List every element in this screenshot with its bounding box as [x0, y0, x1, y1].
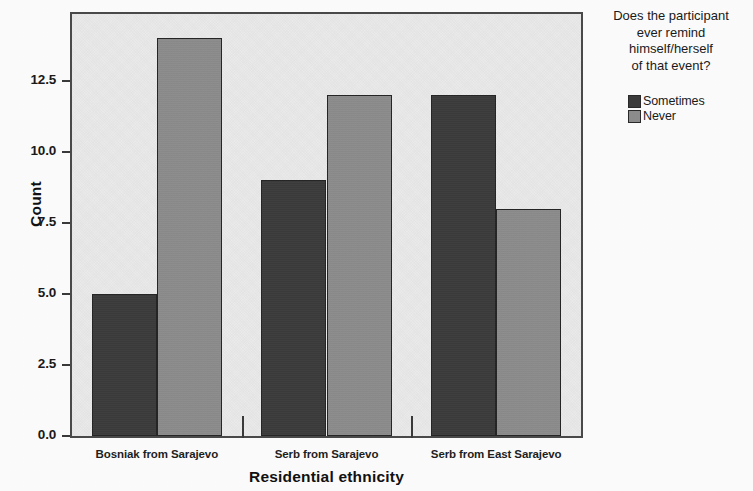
y-tick-mark-2 — [62, 293, 70, 295]
bar-never-2 — [496, 209, 561, 436]
legend-label-sometimes: Sometimes — [643, 94, 705, 108]
y-tick-label-0: 0.0 — [12, 427, 56, 442]
legend: Does the participant ever remind himself… — [596, 8, 746, 124]
y-tick-mark-5 — [62, 80, 70, 82]
y-tick-label-5: 12.5 — [12, 72, 56, 87]
plot-area — [70, 12, 583, 438]
x-axis-title: Residential ethnicity — [70, 468, 583, 486]
legend-swatch-icon-never — [628, 110, 641, 123]
bar-never-0 — [157, 38, 222, 436]
x-tick-label-2: Serb from East Sarajevo — [406, 448, 586, 460]
y-axis-title: Count — [27, 144, 45, 264]
bar-never-1 — [327, 95, 392, 436]
legend-swatch-icon-sometimes — [628, 95, 641, 108]
x-category-divider-2 — [411, 416, 413, 438]
y-tick-label-1: 2.5 — [12, 356, 56, 371]
x-tick-label-0: Bosniak from Sarajevo — [67, 448, 247, 460]
legend-item-never: Never — [628, 109, 746, 123]
y-tick-mark-4 — [62, 151, 70, 153]
bar-sometimes-2 — [431, 95, 496, 436]
bar-sometimes-1 — [261, 180, 326, 436]
legend-label-never: Never — [643, 109, 676, 123]
legend-items: SometimesNever — [596, 94, 746, 123]
legend-item-sometimes: Sometimes — [628, 94, 746, 108]
y-tick-label-2: 5.0 — [12, 285, 56, 300]
y-tick-mark-1 — [62, 364, 70, 366]
x-tick-label-1: Serb from Sarajevo — [237, 448, 417, 460]
bar-chart-figure: 0.02.55.07.510.012.5 Count Bosniak from … — [0, 0, 753, 491]
x-category-divider-1 — [242, 416, 244, 438]
legend-title: Does the participant ever remind himself… — [596, 8, 746, 74]
y-tick-mark-3 — [62, 222, 70, 224]
y-tick-mark-0 — [62, 435, 70, 437]
bar-sometimes-0 — [92, 294, 157, 436]
